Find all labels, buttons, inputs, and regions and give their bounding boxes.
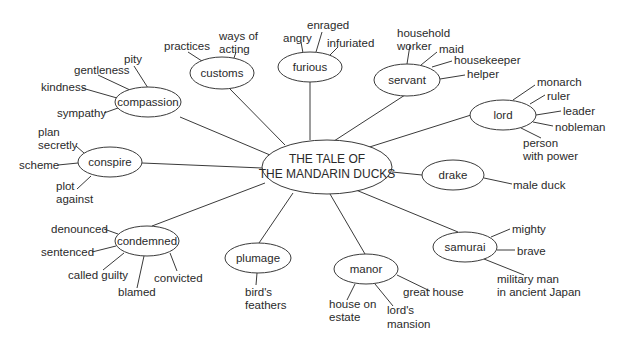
node-conspire: conspire plan secretly scheme plot again… (19, 126, 142, 205)
node-label: plumage (236, 252, 280, 264)
link-samurai (356, 190, 458, 232)
node-label: lord (493, 109, 512, 121)
word-in-ancient-japan: in ancient Japan (497, 286, 581, 298)
word-scheme: scheme (19, 159, 59, 171)
node-compassion: compassion pity gentleness kindness symp… (41, 53, 181, 119)
word-male-duck: male duck (513, 179, 566, 191)
link-plumage (259, 193, 293, 243)
word-with-power: with power (522, 150, 578, 162)
word-housekeeper: housekeeper (454, 54, 521, 66)
link-drake (392, 172, 422, 175)
word-sympathy: sympathy (57, 107, 106, 119)
word-lords: lord's (387, 304, 414, 316)
word-mighty: mighty (512, 223, 546, 235)
node-label: condemned (117, 235, 177, 247)
word-secretly: secretly (38, 139, 78, 151)
node-label: conspire (88, 156, 131, 168)
center-title-line2: THE MANDARIN DUCKS (259, 167, 396, 181)
node-label: furious (293, 61, 328, 73)
word-brave: brave (517, 245, 546, 257)
word-called-guilty: called guilty (68, 269, 128, 281)
link-lord (360, 115, 471, 150)
node-manor: manor house on estate lord's mansion gre… (329, 254, 464, 330)
word-practices: practices (164, 40, 210, 52)
word-against: against (56, 193, 94, 205)
node-furious: furious angry enraged infuriated (278, 19, 374, 82)
word-worker: worker (396, 40, 432, 52)
word-mansion: mansion (387, 318, 430, 330)
word-great-house: great house (403, 286, 464, 298)
word-person: person (523, 137, 558, 149)
word-monarch: monarch (537, 76, 582, 88)
node-label: compassion (117, 96, 178, 108)
word-gentleness: gentleness (74, 64, 130, 76)
link-customs (230, 89, 285, 145)
word-household: household (397, 27, 450, 39)
word-enraged: enraged (307, 19, 349, 31)
word-ruler: ruler (547, 90, 570, 102)
node-label: samurai (445, 241, 486, 253)
center-node: THE TALE OF THE MANDARIN DUCKS (259, 140, 396, 194)
node-label: manor (350, 263, 383, 275)
node-plumage: plumage bird's feathers (225, 243, 291, 311)
word-feathers: feathers (245, 299, 287, 311)
node-condemned: condemned denounced sentenced called gui… (41, 223, 203, 298)
center-title-line1: THE TALE OF (289, 152, 365, 166)
node-label: customs (201, 67, 244, 79)
word-blamed: blamed (118, 286, 156, 298)
word-plan: plan (38, 126, 60, 138)
link-conspire (142, 163, 262, 168)
word-infuriated: infuriated (327, 37, 374, 49)
word-kindness: kindness (41, 81, 87, 93)
node-label: drake (439, 169, 468, 181)
word-ways-of: ways of (218, 30, 259, 42)
node-customs: customs practices ways of acting (164, 30, 259, 89)
word-acting: acting (219, 43, 250, 55)
word-angry: angry (283, 32, 312, 44)
word-web-diagram: THE TALE OF THE MANDARIN DUCKS compassio… (0, 0, 621, 343)
node-drake: drake male duck (422, 160, 566, 191)
node-servant: servant household worker maid housekeepe… (374, 27, 521, 96)
node-lord: lord monarch ruler leader nobleman perso… (470, 76, 606, 162)
node-label: servant (388, 74, 427, 86)
word-leader: leader (563, 105, 595, 117)
word-helper: helper (467, 68, 499, 80)
link-servant (334, 95, 405, 141)
link-manor (330, 194, 365, 254)
link-compassion (180, 117, 270, 155)
word-nobleman: nobleman (555, 121, 606, 133)
link-condemned (152, 183, 265, 226)
word-military-man: military man (497, 273, 559, 285)
word-birds: bird's (245, 286, 272, 298)
word-convicted: convicted (154, 272, 203, 284)
word-sentenced: sentenced (41, 246, 94, 258)
word-house-on: house on (329, 298, 376, 310)
word-estate: estate (329, 311, 360, 323)
word-plot: plot (56, 180, 75, 192)
word-denounced: denounced (51, 223, 108, 235)
